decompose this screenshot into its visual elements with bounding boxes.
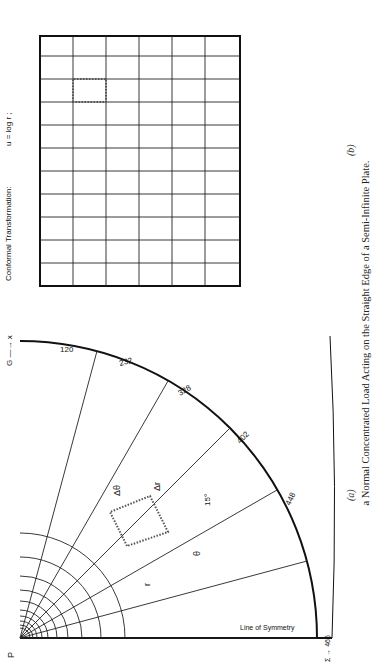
delta-theta-label: Δθ [112, 485, 122, 496]
panel-a-label: (a) [345, 489, 356, 501]
polar-mesh-figure: 120 232 328 402 448 Δθ Δr θ r 15° P G —→… [0, 326, 340, 666]
x-axis-label: G —→ x [5, 335, 14, 366]
r-label: r [142, 583, 152, 586]
delta-r-label: Δr [152, 482, 162, 491]
symmetry-label: Line of Symmetry [240, 624, 295, 632]
conformal-eq1: u = log r ; [4, 112, 13, 146]
angle-label: 15° [203, 494, 212, 506]
arc-value-B: 448 [284, 490, 298, 506]
load-label: P [6, 652, 16, 658]
sigma-label: Σ → 465 [324, 635, 331, 662]
rect-mesh-figure [20, 6, 320, 306]
arc-value-C: 402 [235, 429, 251, 445]
conformal-title: Conformal Transformation: [4, 186, 13, 281]
paper-page: 120 232 328 402 448 Δθ Δr θ r 15° P G —→… [0, 0, 387, 666]
arc-value-F: 120 [60, 345, 74, 354]
figure-caption: a Normal Concentrated Load Acting on the… [360, 0, 371, 666]
theta-label: θ [192, 551, 202, 556]
panel-b-label: (b) [345, 144, 356, 156]
